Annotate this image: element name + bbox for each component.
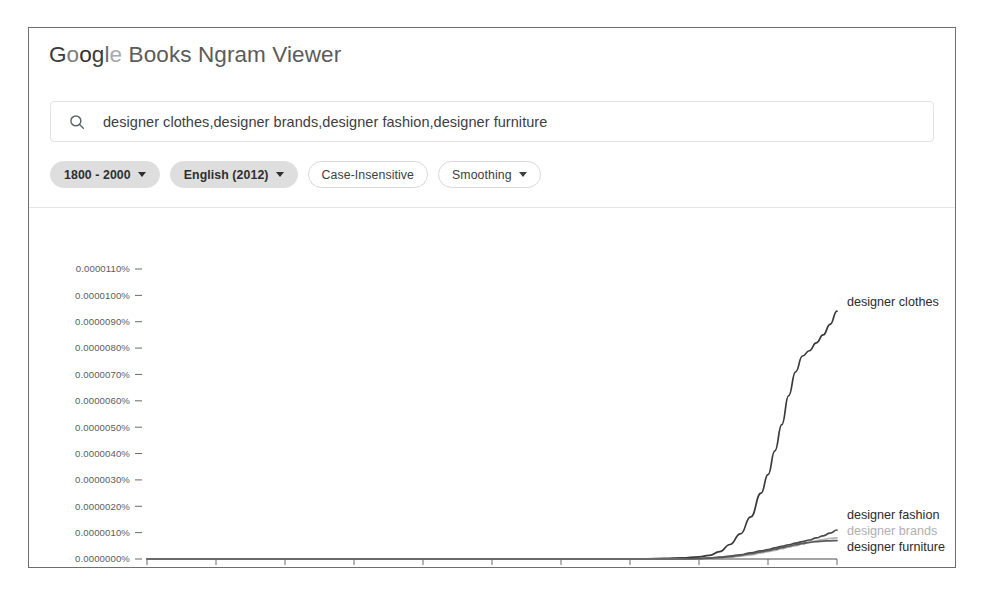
series-label: designer brands [847,524,937,538]
chip-case-insensitive[interactable]: Case-Insensitive [308,161,429,188]
series-inline-legend: designer clothesdesigner fashiondesigner… [847,295,945,554]
chip-smoothing-label: Smoothing [452,168,512,182]
logo-letter-o2: o [79,42,92,67]
logo-letter-e: e [110,42,123,67]
series-lines [147,311,837,559]
logo-letter-g: G [49,42,67,67]
y-tick-label: 0.0000000% [75,553,130,564]
page-title: Google Books Ngram Viewer [49,42,341,68]
chip-date-range[interactable]: 1800 - 2000 [50,161,160,188]
x-tick-label: 1840 [272,567,297,568]
filter-chip-row: 1800 - 2000 English (2012) Case-Insensit… [50,161,541,188]
x-tick-label: 1920 [548,567,573,568]
ngram-viewer-card: Google Books Ngram Viewer designer cloth… [28,27,956,568]
y-tick-label: 0.0000090% [75,316,130,327]
x-tick-label: 1860 [341,567,366,568]
search-input[interactable]: designer clothes,designer brands,designe… [50,101,934,142]
y-tick-label: 0.0000070% [75,369,130,380]
series-label: designer fashion [847,508,939,522]
search-query-text: designer clothes,designer brands,designe… [103,114,547,130]
page-title-rest: Books Ngram Viewer [122,42,341,67]
x-axis-ticks: 1800182018401860188019001920194019601980… [134,559,849,568]
ngram-chart: 0.0000000%0.0000010%0.0000020%0.0000030%… [29,214,956,568]
chip-corpus[interactable]: English (2012) [170,161,298,188]
chip-date-range-label: 1800 - 2000 [64,168,131,182]
x-tick-label: 1940 [617,567,642,568]
y-tick-label: 0.0000020% [75,501,130,512]
x-tick-label: 1820 [203,567,228,568]
chip-case-insensitive-label: Case-Insensitive [322,168,415,182]
search-icon [68,113,86,131]
logo-letter-g2: g [92,42,105,67]
series-label: designer furniture [847,540,945,554]
chevron-down-icon [519,172,527,177]
header-divider [29,207,956,208]
x-tick-label: 1880 [410,567,435,568]
y-tick-label: 0.0000040% [75,448,130,459]
page-root: Google Books Ngram Viewer designer cloth… [0,0,981,589]
chevron-down-icon [276,172,284,177]
y-tick-label: 0.0000060% [75,395,130,406]
chart-canvas: 0.0000000%0.0000010%0.0000020%0.0000030%… [29,214,956,568]
y-tick-label: 0.0000010% [75,527,130,538]
series-line [147,311,837,559]
x-tick-label: 1900 [479,567,504,568]
x-tick-label: 1800 [134,567,159,568]
y-tick-label: 0.0000030% [75,474,130,485]
chip-corpus-label: English (2012) [184,168,269,182]
logo-letter-o1: o [67,42,80,67]
chip-smoothing[interactable]: Smoothing [438,161,541,188]
x-tick-label: 2000 [824,567,849,568]
y-tick-label: 0.0000100% [75,290,130,301]
y-tick-label: 0.0000110% [76,263,131,274]
series-line [147,530,837,559]
y-tick-label: 0.0000050% [75,422,130,433]
x-tick-label: 1960 [686,567,711,568]
y-tick-label: 0.0000080% [75,342,130,353]
y-axis-ticks: 0.0000000%0.0000010%0.0000020%0.0000030%… [75,263,142,564]
series-label: designer clothes [847,295,939,309]
chevron-down-icon [138,172,146,177]
x-tick-label: 1980 [755,567,780,568]
